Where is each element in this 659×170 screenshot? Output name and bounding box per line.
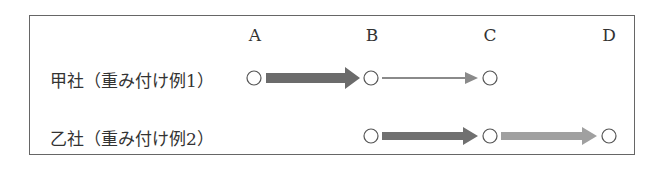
node-c-row2 [483, 129, 497, 143]
row-1-flow [247, 67, 497, 89]
light-arrow-c-to-d [501, 127, 597, 145]
node-c-row1 [483, 71, 497, 85]
thick-arrow-a-to-b [266, 67, 360, 89]
node-b-row2 [364, 129, 378, 143]
thin-arrow-b-to-c [382, 72, 478, 84]
row-2-flow [364, 127, 616, 145]
node-a-row1 [247, 71, 261, 85]
node-d-row2 [602, 129, 616, 143]
flow-diagram [0, 0, 659, 170]
medium-arrow-b-to-c [382, 127, 478, 145]
node-b-row1 [364, 71, 378, 85]
